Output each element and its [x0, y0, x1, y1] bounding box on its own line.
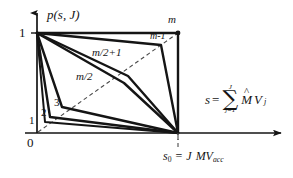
summand-M-with-hat: ^ M — [241, 93, 252, 106]
equation-sum-equals: = — [212, 93, 219, 106]
equation-s0-equals: = — [176, 149, 183, 163]
figure-canvas: p(s, J) 1 0 m m-1 m/2+1 m/2 3 2 1 s = J … — [0, 0, 293, 178]
summation-operator: J ∑ j=1 — [222, 84, 238, 114]
equation-s0-term-MV: MV — [196, 149, 213, 163]
curve-label-1: 1 — [29, 115, 35, 126]
summation-lower-limit: j=1 — [225, 107, 235, 114]
origin-label-zero: 0 — [27, 136, 34, 149]
curve-label-2: 2 — [41, 107, 47, 118]
equation-s0-factor-J: J — [186, 149, 191, 163]
equation-s0-subscript: 0 — [168, 155, 172, 164]
curve-label-m: m — [168, 14, 176, 25]
equation-s0-term-subscript: acc — [213, 155, 224, 164]
summand-V: V — [254, 93, 262, 106]
equation-s0: s0=JMVacc — [163, 150, 224, 162]
curve-m-endpoint-dot — [176, 31, 181, 36]
curve-label-3: 3 — [54, 97, 60, 108]
curve-label-m-half-plus-1: m/2+1 — [92, 47, 121, 58]
curve-label-m-minus-1: m-1 — [150, 31, 166, 41]
curve-label-m-half: m/2 — [76, 71, 93, 82]
equation-s0-symbol: s — [163, 149, 168, 163]
hat-accent-icon: ^ — [244, 86, 249, 97]
equation-sum-lhs: s — [205, 93, 210, 106]
y-axis-title: p(s, J) — [47, 8, 80, 21]
y-axis-tick-label-one: 1 — [19, 26, 26, 39]
equation-sum: s = J ∑ j=1 ^ M V j — [205, 84, 266, 114]
summand-index: j — [264, 98, 266, 106]
